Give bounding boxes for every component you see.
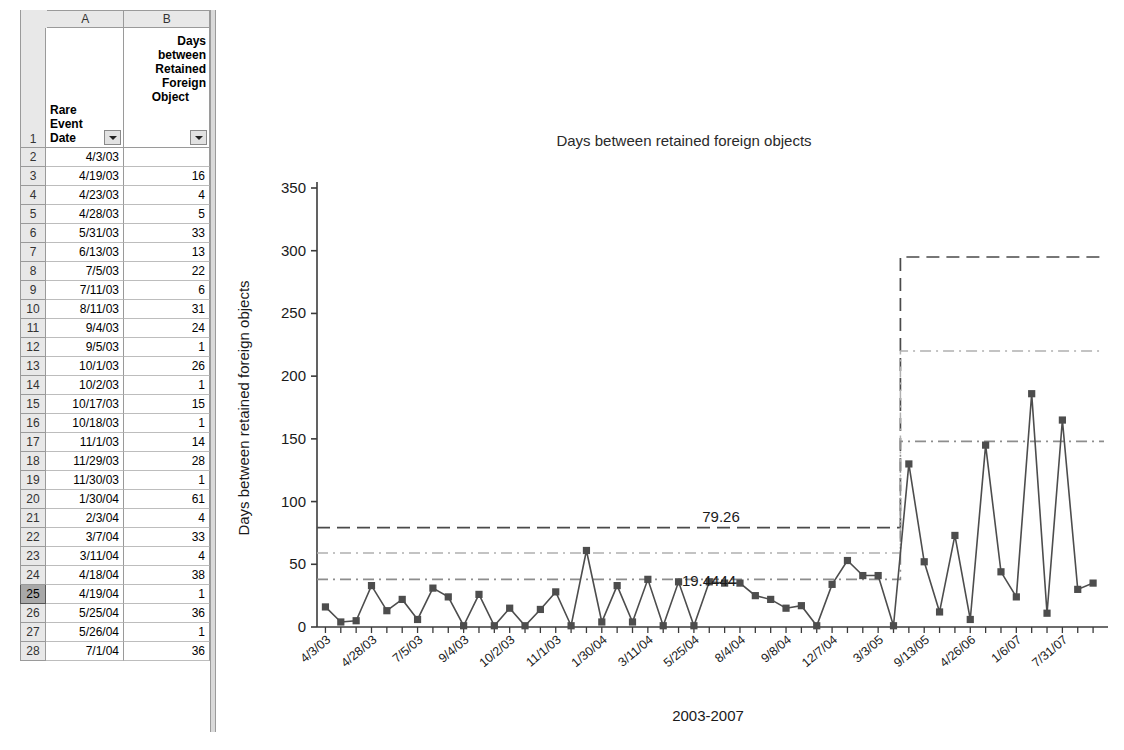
row-header-cell[interactable]: 17 (20, 433, 46, 452)
data-point-marker[interactable] (460, 622, 467, 629)
data-point-marker[interactable] (445, 593, 452, 600)
control-chart[interactable]: Days between retained foreign objects050… (216, 18, 1116, 744)
row-header-cell[interactable]: 28 (20, 642, 46, 661)
cell-days-between[interactable]: 1 (124, 585, 210, 604)
cell-days-between[interactable]: 1 (124, 471, 210, 490)
data-point-marker[interactable] (567, 622, 574, 629)
data-point-marker[interactable] (644, 576, 651, 583)
row-header-cell[interactable]: 3 (20, 167, 46, 186)
row-header-cell[interactable]: 12 (20, 338, 46, 357)
cell-rare-event-date[interactable]: 11/30/03 (46, 471, 124, 490)
data-point-marker[interactable] (767, 596, 774, 603)
table-row[interactable]: 108/11/0331 (20, 300, 210, 319)
row-header-cell[interactable]: 13 (20, 357, 46, 376)
cell-days-between[interactable] (124, 148, 210, 167)
cell-days-between[interactable]: 1 (124, 623, 210, 642)
table-row[interactable]: 129/5/031 (20, 338, 210, 357)
data-point-marker[interactable] (399, 596, 406, 603)
cell-rare-event-date[interactable]: 4/19/04 (46, 585, 124, 604)
row-header-cell[interactable]: 9 (20, 281, 46, 300)
row-header-cell[interactable]: 27 (20, 623, 46, 642)
data-point-marker[interactable] (475, 591, 482, 598)
select-all-corner[interactable] (20, 10, 47, 28)
cell-rare-event-date[interactable]: 2/3/04 (46, 509, 124, 528)
data-point-marker[interactable] (1089, 580, 1096, 587)
cell-days-between[interactable]: 28 (124, 452, 210, 471)
table-row[interactable]: 1811/29/0328 (20, 452, 210, 471)
row-header-cell[interactable]: 18 (20, 452, 46, 471)
data-point-marker[interactable] (997, 568, 1004, 575)
cell-rare-event-date[interactable]: 6/13/03 (46, 243, 124, 262)
data-point-marker[interactable] (353, 617, 360, 624)
cell-days-between[interactable]: 36 (124, 604, 210, 623)
cell-rare-event-date[interactable]: 7/11/03 (46, 281, 124, 300)
row-header-cell[interactable]: 11 (20, 319, 46, 338)
cell-rare-event-date[interactable]: 4/18/04 (46, 566, 124, 585)
cell-days-between[interactable]: 6 (124, 281, 210, 300)
table-row[interactable]: 54/28/035 (20, 205, 210, 224)
table-row[interactable]: 24/3/03 (20, 148, 210, 167)
row-header-cell[interactable]: 10 (20, 300, 46, 319)
data-point-marker[interactable] (322, 603, 329, 610)
filter-dropdown-arrow-icon[interactable] (190, 130, 207, 145)
data-point-marker[interactable] (905, 460, 912, 467)
row-header-cell[interactable]: 21 (20, 509, 46, 528)
row-header-cell[interactable]: 15 (20, 395, 46, 414)
table-row[interactable]: 97/11/036 (20, 281, 210, 300)
cell-days-between[interactable]: 16 (124, 167, 210, 186)
cell-rare-event-date[interactable]: 9/5/03 (46, 338, 124, 357)
data-point-marker[interactable] (813, 622, 820, 629)
data-point-marker[interactable] (936, 608, 943, 615)
table-row[interactable]: 265/25/0436 (20, 604, 210, 623)
row-number-1[interactable]: 1 (20, 28, 46, 148)
cell-rare-event-date[interactable]: 10/1/03 (46, 357, 124, 376)
row-header-cell[interactable]: 4 (20, 186, 46, 205)
data-point-marker[interactable] (798, 602, 805, 609)
cell-days-between[interactable]: 1 (124, 376, 210, 395)
column-header-B[interactable]: B (124, 10, 210, 28)
table-row[interactable]: 87/5/0322 (20, 262, 210, 281)
cell-days-between[interactable]: 31 (124, 300, 210, 319)
data-point-marker[interactable] (614, 582, 621, 589)
cell-rare-event-date[interactable]: 4/19/03 (46, 167, 124, 186)
cell-days-between[interactable]: 4 (124, 509, 210, 528)
cell-days-between[interactable]: 36 (124, 642, 210, 661)
table-row[interactable]: 1310/1/0326 (20, 357, 210, 376)
table-row[interactable]: 287/1/0436 (20, 642, 210, 661)
data-point-marker[interactable] (782, 605, 789, 612)
cell-days-between[interactable]: 4 (124, 547, 210, 566)
cell-days-between[interactable]: 5 (124, 205, 210, 224)
table-row[interactable]: 223/7/0433 (20, 528, 210, 547)
data-point-marker[interactable] (383, 607, 390, 614)
data-point-marker[interactable] (1013, 593, 1020, 600)
table-row[interactable]: 1510/17/0315 (20, 395, 210, 414)
data-point-marker[interactable] (414, 616, 421, 623)
cell-days-between[interactable]: 1 (124, 414, 210, 433)
table-row[interactable]: 1410/2/031 (20, 376, 210, 395)
data-point-marker[interactable] (552, 588, 559, 595)
data-point-marker[interactable] (491, 622, 498, 629)
cell-rare-event-date[interactable]: 3/11/04 (46, 547, 124, 566)
data-point-marker[interactable] (1043, 610, 1050, 617)
cell-days-between[interactable]: 1 (124, 338, 210, 357)
row-header-cell[interactable]: 5 (20, 205, 46, 224)
cell-rare-event-date[interactable]: 11/1/03 (46, 433, 124, 452)
table-row[interactable]: 76/13/0313 (20, 243, 210, 262)
table-row[interactable]: 1610/18/031 (20, 414, 210, 433)
table-row[interactable]: 275/26/041 (20, 623, 210, 642)
cell-days-between[interactable]: 61 (124, 490, 210, 509)
table-row[interactable]: 44/23/034 (20, 186, 210, 205)
row-header-cell[interactable]: 23 (20, 547, 46, 566)
table-row[interactable]: 34/19/0316 (20, 167, 210, 186)
table-row[interactable]: 201/30/0461 (20, 490, 210, 509)
cell-days-between[interactable]: 38 (124, 566, 210, 585)
column-header-A[interactable]: A (47, 10, 125, 28)
data-point-marker[interactable] (337, 618, 344, 625)
cell-rare-event-date[interactable]: 8/11/03 (46, 300, 124, 319)
cell-days-between[interactable]: 33 (124, 528, 210, 547)
cell-rare-event-date[interactable]: 7/1/04 (46, 642, 124, 661)
row-header-cell[interactable]: 20 (20, 490, 46, 509)
data-point-marker[interactable] (951, 532, 958, 539)
data-point-marker[interactable] (752, 592, 759, 599)
data-point-marker[interactable] (890, 622, 897, 629)
